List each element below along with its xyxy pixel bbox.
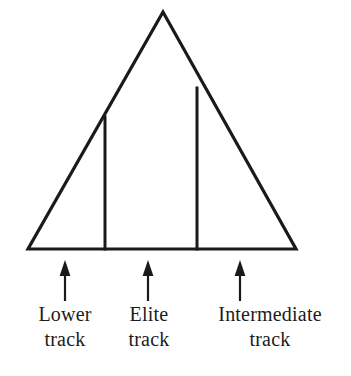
labels-layer: Lower track Elite track Intermediate tra… <box>0 302 351 376</box>
label-intermediate-track-line1: Intermediate <box>192 302 348 327</box>
arrow-elite-icon <box>143 260 154 301</box>
label-elite-track-line1: Elite <box>112 302 186 327</box>
label-lower-track: Lower track <box>4 302 126 352</box>
arrow-lower-icon <box>60 260 71 301</box>
label-intermediate-track-line2: track <box>192 327 348 352</box>
label-intermediate-track: Intermediate track <box>192 302 348 352</box>
label-elite-track: Elite track <box>112 302 186 352</box>
arrow-intermediate-icon <box>235 260 246 301</box>
label-lower-track-line2: track <box>4 327 126 352</box>
label-elite-track-line2: track <box>112 327 186 352</box>
label-lower-track-line1: Lower <box>4 302 126 327</box>
triangle-outline <box>28 12 296 249</box>
diagram-root: Lower track Elite track Intermediate tra… <box>0 0 351 376</box>
